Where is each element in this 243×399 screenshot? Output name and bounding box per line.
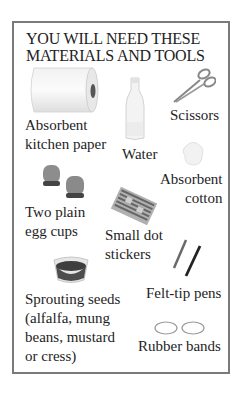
item-label-scissors: Scissors [170, 106, 219, 125]
item-label-seeds: Sprouting seeds (alfalfa, mung beans, mu… [25, 290, 120, 366]
label-line: Rubber bands [138, 337, 221, 356]
item-label-water: Water [122, 145, 157, 164]
label-line: egg cups [25, 222, 85, 241]
panel-title: YOU WILL NEED THESE MATERIALS AND TOOLS [26, 30, 205, 64]
item-label-egg-cups: Two plain egg cups [25, 203, 85, 241]
seed-bowl-icon [52, 252, 90, 286]
item-label-pens: Felt-tip pens [146, 284, 221, 303]
label-line: or cress) [25, 347, 120, 366]
label-line: Small dot [105, 226, 163, 245]
paper-roll-icon [26, 64, 102, 116]
water-bottle-icon [124, 76, 146, 142]
item-label-bands: Rubber bands [138, 337, 221, 356]
egg-cups-icon [40, 162, 88, 206]
label-line: Sprouting seeds [25, 290, 120, 309]
item-label-cotton: Absorbent cotton [160, 170, 223, 208]
felt-tip-pens-icon [170, 236, 206, 280]
scissors-icon [170, 66, 216, 104]
label-line: Water [122, 145, 157, 164]
label-line: (alfalfa, mung [25, 309, 120, 328]
label-line: Two plain [25, 203, 85, 222]
label-line: stickers [105, 245, 163, 264]
cotton-ball-icon [180, 140, 206, 168]
label-line: Scissors [170, 106, 219, 125]
label-line: Absorbent [25, 116, 106, 135]
title-line-1: YOU WILL NEED THESE [26, 30, 205, 47]
label-line: Felt-tip pens [146, 284, 221, 303]
label-line: cotton [160, 189, 223, 208]
rubber-bands-icon [152, 320, 208, 336]
dot-stickers-icon [108, 186, 160, 226]
title-line-2: MATERIALS AND TOOLS [26, 47, 205, 64]
item-label-kitchen-paper: Absorbent kitchen paper [25, 116, 106, 154]
label-line: beans, mustard [25, 328, 120, 347]
label-line: Absorbent [160, 170, 223, 189]
label-line: kitchen paper [25, 135, 106, 154]
item-label-dot-stickers: Small dot stickers [105, 226, 163, 264]
